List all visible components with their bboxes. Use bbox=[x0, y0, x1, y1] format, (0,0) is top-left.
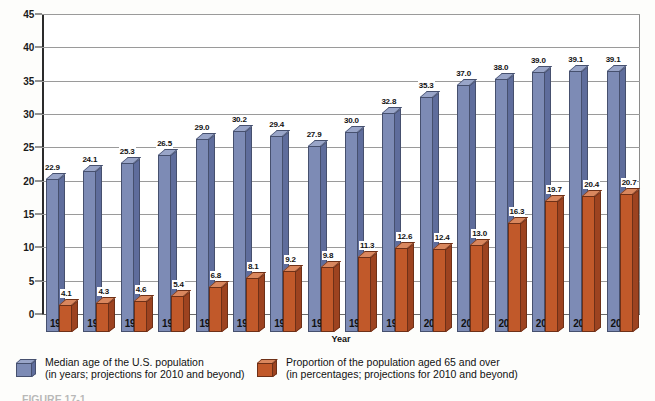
bar-value-proportion-65-1990: 12.6 bbox=[396, 232, 413, 241]
bar-proportion-65-2050[interactable] bbox=[620, 194, 633, 332]
y-tick-mark-35 bbox=[35, 80, 42, 81]
bar-proportion-65-1900[interactable] bbox=[59, 305, 72, 332]
chart-legend: Median age of the U.S. population (in ye… bbox=[16, 356, 640, 390]
y-tick-mark-25 bbox=[35, 147, 42, 148]
bar-median-age-1950[interactable] bbox=[233, 131, 246, 332]
bar-value-median-age-2000: 35.3 bbox=[418, 81, 435, 90]
bar-value-median-age-1970: 27.9 bbox=[306, 130, 323, 139]
bar-value-proportion-65-2010: 13.0 bbox=[471, 229, 488, 238]
bar-proportion-65-2020[interactable] bbox=[508, 223, 521, 332]
bar-value-proportion-65-2030: 19.7 bbox=[546, 185, 563, 194]
bar-median-age-1900[interactable] bbox=[46, 179, 59, 332]
bar-median-age-2010[interactable] bbox=[457, 85, 470, 332]
bar-median-age-2040[interactable] bbox=[569, 71, 582, 332]
bar-median-age-1980[interactable] bbox=[345, 132, 358, 332]
y-tick-label-5: 5 bbox=[12, 275, 34, 286]
bar-median-age-2050[interactable] bbox=[607, 71, 620, 332]
y-tick-label-30: 30 bbox=[12, 109, 34, 120]
bar-proportion-65-1970[interactable] bbox=[321, 267, 334, 332]
legend-entry-median-age: Median age of the U.S. population (in ye… bbox=[16, 356, 245, 380]
bar-value-proportion-65-1910: 4.3 bbox=[97, 287, 110, 296]
legend-label-proportion-65: Proportion of the population aged 65 and… bbox=[286, 356, 518, 380]
y-tick-label-45: 45 bbox=[12, 9, 34, 20]
y-tick-mark-40 bbox=[35, 47, 42, 48]
bar-value-median-age-1950: 30.2 bbox=[231, 115, 248, 124]
blue-cube-icon bbox=[16, 359, 36, 377]
y-tick-label-25: 25 bbox=[12, 142, 34, 153]
bar-value-median-age-1980: 30.0 bbox=[343, 116, 360, 125]
bar-proportion-65-2040[interactable] bbox=[582, 196, 595, 332]
bar-median-age-2000[interactable] bbox=[420, 97, 433, 332]
bar-value-proportion-65-1930: 5.4 bbox=[172, 280, 185, 289]
bar-proportion-65-1950[interactable] bbox=[246, 278, 259, 332]
bar-value-proportion-65-1900: 4.1 bbox=[60, 289, 73, 298]
orange-cube-icon bbox=[257, 359, 277, 377]
bar-value-median-age-1940: 29.0 bbox=[194, 123, 211, 132]
bar-proportion-65-1920[interactable] bbox=[134, 301, 147, 332]
y-tick-mark-5 bbox=[35, 280, 42, 281]
bar-group-2050: 39.120.7 bbox=[603, 32, 640, 332]
gridline-45 bbox=[42, 14, 640, 15]
bar-group-2020: 38.016.3 bbox=[491, 32, 528, 332]
bar-median-age-1930[interactable] bbox=[158, 155, 171, 332]
bar-proportion-65-1980[interactable] bbox=[358, 257, 371, 332]
bar-group-1940: 29.06.8 bbox=[192, 32, 229, 332]
bar-value-proportion-65-1950: 8.1 bbox=[247, 262, 260, 271]
bar-group-2010: 37.013.0 bbox=[453, 32, 490, 332]
chart-canvas: 051015202530354045 22.94.124.14.325.34.6… bbox=[28, 14, 640, 332]
y-tick-mark-20 bbox=[35, 180, 42, 181]
bar-value-median-age-1990: 32.8 bbox=[380, 97, 397, 106]
legend-entry-proportion-65: Proportion of the population aged 65 and… bbox=[257, 356, 518, 380]
y-tick-mark-10 bbox=[35, 247, 42, 248]
bar-group-1970: 27.99.8 bbox=[304, 32, 341, 332]
bar-median-age-1910[interactable] bbox=[83, 171, 96, 332]
bar-proportion-65-1990[interactable] bbox=[395, 248, 408, 332]
y-tick-mark-30 bbox=[35, 114, 42, 115]
bar-group-1900: 22.94.1 bbox=[42, 32, 79, 332]
bar-proportion-65-1910[interactable] bbox=[96, 303, 109, 332]
bar-value-median-age-1900: 22.9 bbox=[44, 163, 61, 172]
bar-value-proportion-65-2020: 16.3 bbox=[509, 207, 526, 216]
bar-value-median-age-1930: 26.5 bbox=[156, 139, 173, 148]
bar-proportion-65-2010[interactable] bbox=[470, 245, 483, 332]
bar-value-proportion-65-1960: 9.2 bbox=[284, 255, 297, 264]
bar-median-age-2020[interactable] bbox=[495, 79, 508, 332]
y-tick-label-40: 40 bbox=[12, 42, 34, 53]
bar-value-median-age-2030: 39.0 bbox=[530, 56, 547, 65]
bar-value-proportion-65-1940: 6.8 bbox=[210, 271, 223, 280]
bar-group-2000: 35.312.4 bbox=[416, 32, 453, 332]
bar-group-1990: 32.812.6 bbox=[378, 32, 415, 332]
legend-line-2: (in percentages; projections for 2010 an… bbox=[286, 368, 518, 380]
y-tick-label-0: 0 bbox=[12, 309, 34, 320]
bar-group-1960: 29.49.2 bbox=[266, 32, 303, 332]
bar-median-age-1940[interactable] bbox=[196, 139, 209, 332]
bar-proportion-65-2030[interactable] bbox=[545, 201, 558, 332]
bar-median-age-1960[interactable] bbox=[270, 136, 283, 332]
bar-value-median-age-2010: 37.0 bbox=[455, 69, 472, 78]
y-tick-label-35: 35 bbox=[12, 75, 34, 86]
bar-value-median-age-1910: 24.1 bbox=[81, 155, 98, 164]
bar-value-proportion-65-2000: 12.4 bbox=[434, 233, 451, 242]
bar-value-proportion-65-1970: 9.8 bbox=[322, 251, 335, 260]
bar-value-median-age-1960: 29.4 bbox=[268, 120, 285, 129]
y-tick-mark-15 bbox=[35, 214, 42, 215]
bar-proportion-65-2000[interactable] bbox=[433, 249, 446, 332]
bar-group-2030: 39.019.7 bbox=[528, 32, 565, 332]
bar-group-2040: 39.120.4 bbox=[565, 32, 602, 332]
x-axis-title: Year bbox=[42, 334, 640, 344]
figure-caption: FIGURE 17-1 bbox=[22, 393, 622, 401]
y-tick-label-20: 20 bbox=[12, 175, 34, 186]
bar-median-age-2030[interactable] bbox=[532, 72, 545, 332]
bar-median-age-1990[interactable] bbox=[382, 113, 395, 332]
bar-median-age-1970[interactable] bbox=[308, 146, 321, 332]
bar-proportion-65-1930[interactable] bbox=[171, 296, 184, 332]
legend-line-1: Proportion of the population aged 65 and… bbox=[286, 356, 518, 368]
bar-value-median-age-2020: 38.0 bbox=[493, 63, 510, 72]
bar-value-median-age-2050: 39.1 bbox=[605, 55, 622, 64]
bar-proportion-65-1960[interactable] bbox=[283, 271, 296, 332]
bar-value-proportion-65-2040: 20.4 bbox=[583, 180, 600, 189]
bar-proportion-65-1940[interactable] bbox=[209, 287, 222, 332]
bar-value-proportion-65-2050: 20.7 bbox=[621, 178, 638, 187]
bar-median-age-1920[interactable] bbox=[121, 163, 134, 332]
bar-group-1950: 30.28.1 bbox=[229, 32, 266, 332]
